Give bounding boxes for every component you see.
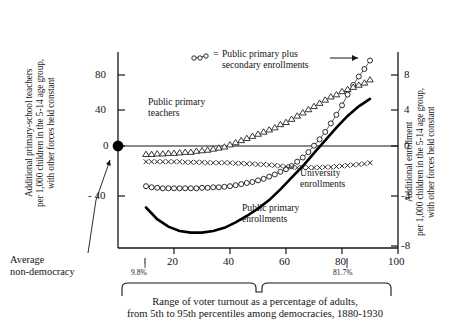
y-right-tick-minus4: -4 — [401, 189, 410, 201]
x-tick-20: 20 — [167, 255, 178, 267]
x-tick-100: 100 — [388, 255, 405, 267]
pct-high-label: 81.7% — [333, 268, 353, 277]
pct-low-label: 9.8% — [131, 268, 147, 277]
legend-marker-open-circle — [192, 54, 208, 60]
legend-label: Public primary plus secondary enrollment… — [222, 49, 337, 70]
chart-figure: Additional primary-school teachers per 1… — [0, 0, 465, 325]
x-axis-caption: Range of voter turnout as a percentage o… — [105, 296, 405, 321]
x-tick-80: 80 — [335, 255, 346, 267]
average-non-democracy-leader — [88, 160, 110, 253]
y-left-tick-80: 80 — [95, 68, 106, 80]
y-left-tick-minus40: - 40 — [88, 189, 105, 201]
x-tick-40: 40 — [223, 255, 234, 267]
y-left-tick-0: 0 — [103, 139, 109, 151]
y-right-tick-minus8: -8 — [401, 239, 410, 251]
x-axis-ticks — [174, 248, 398, 254]
y-right-tick-8: 8 — [404, 68, 410, 80]
annotation-average-non-democracy: Average non-democracy — [10, 254, 75, 279]
y-right-tick-4: 4 — [404, 103, 410, 115]
y-axis-left-label: Additional primary-school teachers per 1… — [24, 8, 57, 258]
average-non-democracy-dot — [113, 141, 124, 152]
y-right-tick-0: 0 — [404, 139, 410, 151]
x-tick-60: 60 — [279, 255, 290, 267]
y-axis-left-ticks — [118, 75, 125, 196]
y-left-tick-40: 40 — [95, 103, 106, 115]
range-brace — [122, 283, 391, 296]
annotation-teachers: Public primary teachers — [148, 97, 205, 119]
annotation-primary-enrollments: Public primary enrollments — [242, 203, 299, 225]
annotation-university: University enrollments — [300, 168, 345, 190]
y-axis-right-ticks — [391, 75, 398, 246]
legend-equals-sign: = — [213, 49, 218, 60]
